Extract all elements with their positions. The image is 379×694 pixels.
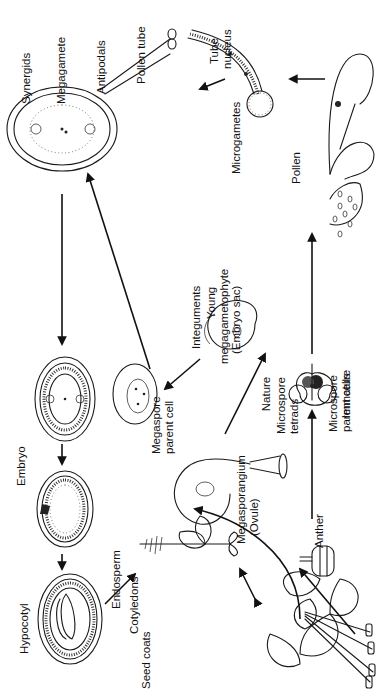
label-tube-nucleus-2: nucleus xyxy=(221,29,233,69)
label-megaspore-parent-cell-2: parent cell xyxy=(163,401,175,454)
label-integuments: Integuments xyxy=(190,285,202,349)
label-microspore-tetrads-1: Microspore xyxy=(275,377,287,434)
label-microspore-parent-cells-2: parent cells xyxy=(340,373,352,432)
fertilized-ovule-illustration xyxy=(35,357,95,441)
label-young-megagametophyte-1: Young xyxy=(205,287,217,319)
label-young-megagametophyte-2: megagametophyte xyxy=(218,269,230,364)
developing-embryo-sac-illustration xyxy=(113,364,157,424)
label-pollen-tube: Pollen tube xyxy=(135,26,147,84)
label-nature: Nature xyxy=(260,377,272,412)
megasporangium-illustration xyxy=(174,454,287,524)
seedling-illustration xyxy=(140,516,237,556)
arrow-to-young-megagametophyte xyxy=(225,354,265,434)
arrow-to-mature-sac xyxy=(88,174,150,369)
label-antipodals: Antipodals xyxy=(95,40,107,94)
fertilization-illustration xyxy=(7,29,176,171)
arrow-flower-seedling xyxy=(240,569,255,599)
ovule-with-embryo-illustration xyxy=(37,471,93,547)
label-embryo: Embryo xyxy=(15,446,27,486)
flower-illustration xyxy=(267,572,375,688)
arrow-to-fertilization xyxy=(200,79,225,89)
label-microgametes: Microgametes xyxy=(230,102,242,174)
life-cycle-diagram: Anther Immature Nature Microspore parent… xyxy=(0,0,379,694)
label-pollen: Pollen xyxy=(290,152,302,184)
label-synergids: Synergids xyxy=(20,53,32,104)
label-anther: Anther xyxy=(313,514,325,548)
label-hypocotyl: Hypocotyl xyxy=(18,604,30,655)
arrow-flower-to-anther xyxy=(300,569,355,634)
pollen-sac-illustration xyxy=(329,54,374,237)
label-microspore-parent-cells-1: Microspore xyxy=(327,375,339,432)
seed-illustration xyxy=(38,574,102,664)
anther-illustration xyxy=(300,546,334,576)
label-megagamete: Megagamete xyxy=(55,37,67,104)
label-young-megagametophyte-3: (Embryo sac) xyxy=(230,285,242,354)
arrow-to-developing-sac xyxy=(165,359,200,389)
label-seed-coats: Seed coats xyxy=(140,631,152,689)
label-microspore-tetrads-2: tetrads xyxy=(288,399,300,434)
label-tube-nucleus-1: Tube xyxy=(208,38,220,64)
label-megasporangium-2: (Ovule) xyxy=(248,498,260,536)
label-megasporangium-1: Megasporangium xyxy=(235,455,247,544)
label-endosperm: Endosperm xyxy=(110,550,122,609)
label-cotyledons: Cotyledons xyxy=(128,576,140,634)
